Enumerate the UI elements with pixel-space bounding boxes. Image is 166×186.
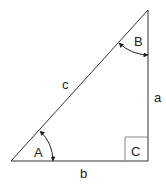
angle-a-label: A bbox=[34, 145, 43, 160]
triangle-diagram: A B C a b c bbox=[0, 0, 166, 186]
angle-b-label: B bbox=[134, 34, 143, 49]
angle-c-label: C bbox=[131, 144, 140, 159]
side-c-label: c bbox=[62, 77, 69, 92]
side-b-label: b bbox=[80, 166, 87, 181]
side-a-label: a bbox=[154, 90, 162, 105]
side-c-hypotenuse bbox=[11, 10, 148, 161]
